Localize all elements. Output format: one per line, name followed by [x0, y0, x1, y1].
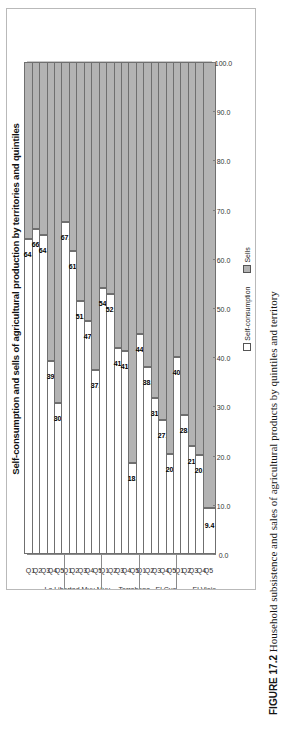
- bar-value-label: 9.4: [204, 518, 214, 531]
- value-axis-label: 40.0: [212, 355, 236, 362]
- value-axis-label: 70.0: [212, 207, 236, 214]
- value-axis-label: 60.0: [212, 256, 236, 263]
- figure-caption-text: Household subsistence and sales of agric…: [267, 291, 279, 652]
- chart-title: Self-consumption and sells of agricultur…: [10, 9, 21, 589]
- value-axis-label: 0.0: [212, 552, 236, 559]
- territory-separator: [64, 555, 65, 589]
- legend-label: Self-consumption: [244, 287, 251, 341]
- category-label: Q5: [198, 567, 220, 574]
- value-axis-label: 80.0: [212, 158, 236, 165]
- legend-item: Self-consumption: [243, 287, 251, 351]
- legend-item: Sells: [243, 247, 251, 272]
- legend-swatch-icon: [243, 265, 251, 273]
- value-axis-label: 10.0: [212, 502, 236, 509]
- value-axis-label: 30.0: [212, 404, 236, 411]
- territory-separator: [176, 555, 177, 589]
- legend-label: Sells: [244, 247, 251, 262]
- territory-separator: [139, 555, 140, 589]
- rotated-chart-stage: Self-consumption and sells of agricultur…: [7, 9, 255, 589]
- figure-label: FIGURE 17.2: [268, 654, 279, 714]
- plot-area: 64.166.164.939.230.667.461.651.447.437.4…: [27, 63, 213, 555]
- bar-segment-sells: [203, 62, 216, 508]
- chart-frame: Self-consumption and sells of agricultur…: [6, 8, 256, 590]
- value-axis-label: 90.0: [212, 109, 236, 116]
- territory-separator: [101, 555, 102, 589]
- value-axis-label: 50.0: [212, 306, 236, 313]
- value-axis-label: 100.0: [212, 60, 236, 67]
- figure-caption: FIGURE 17.2 Household subsistence and sa…: [267, 15, 279, 715]
- figure-page: Self-consumption and sells of agricultur…: [0, 0, 290, 729]
- figure-caption-wrap: FIGURE 17.2 Household subsistence and sa…: [256, 0, 290, 729]
- legend-swatch-icon: [243, 343, 251, 351]
- chart-legend: Self-consumptionSells: [243, 9, 251, 589]
- value-axis-label: 20.0: [212, 453, 236, 460]
